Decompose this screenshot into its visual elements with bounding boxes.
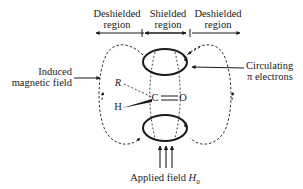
region-span-arrows [96, 29, 240, 37]
pi-electron-lobes [143, 49, 187, 141]
diagram-graphics [0, 0, 303, 189]
circulating-pointer-arrow [192, 67, 244, 68]
applied-field-arrows [160, 146, 172, 168]
inner-field-lines [150, 52, 181, 138]
induced-field-loops [99, 45, 233, 144]
